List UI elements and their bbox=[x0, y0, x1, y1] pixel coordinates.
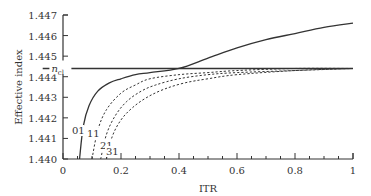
y-tick-label: 1.443 bbox=[28, 92, 57, 103]
x-axis-title: ITR bbox=[199, 183, 218, 194]
x-tick-label: 0.8 bbox=[287, 165, 303, 176]
series-31 bbox=[107, 68, 354, 159]
x-tick-label: 0.4 bbox=[171, 165, 187, 176]
x-tick-label: 0 bbox=[60, 165, 66, 176]
mode-label-01: 01 bbox=[72, 125, 85, 136]
y-tick-label: 1.440 bbox=[28, 154, 57, 165]
y-tick-label: 1.442 bbox=[28, 113, 57, 124]
y-axis-title: Effective index bbox=[13, 49, 24, 125]
series-11 bbox=[92, 68, 353, 159]
labels-group: ncl01112131 bbox=[49, 60, 118, 157]
series-01 bbox=[80, 23, 353, 159]
y-tick-label: 1.441 bbox=[28, 133, 57, 144]
x-tick-label: 1 bbox=[350, 165, 356, 176]
x-tick-label: 0.2 bbox=[113, 165, 129, 176]
mode-label-31: 31 bbox=[106, 146, 119, 157]
series-21 bbox=[101, 68, 353, 159]
axes: 1.4401.4411.4421.4431.4441.4451.4461.447… bbox=[13, 10, 356, 194]
ncl-label-subscript: cl bbox=[58, 69, 65, 77]
x-tick-label: 0.6 bbox=[229, 165, 245, 176]
y-tick-label: 1.447 bbox=[28, 10, 57, 21]
mode-label-11: 11 bbox=[87, 128, 100, 139]
chart: 1.4401.4411.4421.4431.4441.4451.4461.447… bbox=[0, 0, 371, 196]
y-tick-label: 1.446 bbox=[28, 31, 57, 42]
